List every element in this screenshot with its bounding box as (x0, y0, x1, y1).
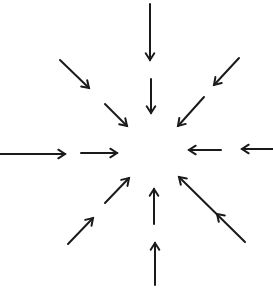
arrow-shaft (105, 178, 129, 203)
arrow-top-outer-icon (146, 4, 155, 60)
arrow-upper-right-inner-icon (178, 97, 204, 126)
arrow-bottom-outer-icon (151, 243, 160, 285)
arrow-upper-left-inner-icon (105, 104, 127, 126)
arrow-left-outer-icon (0, 150, 65, 159)
arrow-bottom-inner-icon (150, 189, 159, 224)
arrow-left-inner-icon (81, 149, 117, 158)
arrows-canvas (0, 0, 273, 288)
arrow-top-inner-icon (147, 79, 156, 113)
arrow-lower-right-icon (179, 177, 245, 242)
arrow-shaft (179, 177, 245, 242)
arrow-lower-left-outer-icon (68, 218, 93, 244)
arrow-shaft (60, 60, 89, 88)
converging-arrows-diagram (0, 0, 273, 288)
arrow-shaft (105, 104, 127, 126)
arrow-upper-left-outer-icon (60, 60, 89, 88)
arrow-upper-right-outer-icon (214, 58, 239, 85)
arrow-shaft (214, 58, 239, 85)
arrow-shaft (178, 97, 204, 126)
arrow-shaft (68, 218, 93, 244)
arrow-right-outer-icon (242, 145, 273, 154)
arrow-lower-left-inner-icon (105, 178, 129, 203)
arrow-right-inner-icon (189, 146, 221, 155)
